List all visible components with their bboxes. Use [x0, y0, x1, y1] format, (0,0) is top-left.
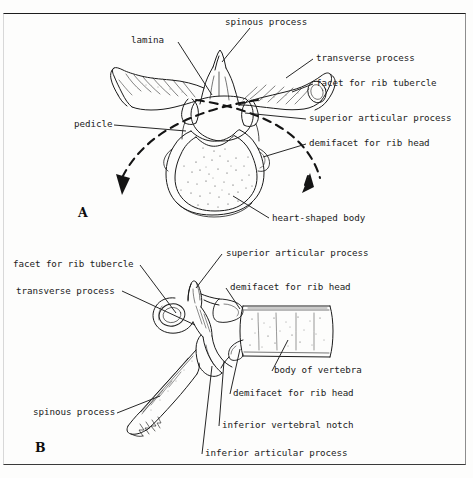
label-transverse-process-b: transverse process: [16, 285, 115, 296]
label-heart-shaped-body-a: heart-shaped body: [272, 212, 365, 223]
label-superior-articular-process-b: superior articular process: [226, 247, 369, 258]
label-spinous-process-a: spinous process: [225, 16, 307, 27]
panel-letter-a: A: [78, 205, 88, 220]
figure-plate: spinous process lamina transverse proces…: [0, 0, 473, 478]
label-demifacet-for-rib-head-b-upper: demifacet for rib head: [230, 281, 351, 292]
label-inferior-vertebral-notch-b: inferior vertebral notch: [222, 419, 354, 430]
label-spinous-process-b: spinous process: [33, 406, 115, 417]
label-superior-articular-process-a: superior articular process: [309, 112, 452, 123]
label-inferior-articular-process-b: inferior articular process: [205, 447, 348, 458]
label-pedicle-a: pedicle: [74, 118, 112, 129]
label-demifacet-for-rib-head-a: demifacet for rib head: [309, 137, 430, 148]
label-facet-for-rib-tubercle-b: facet for rib tubercle: [13, 258, 134, 269]
label-body-of-vertebra-b: body of vertebra: [274, 364, 362, 375]
label-facet-for-rib-tubercle-a: facet for rib tubercle: [316, 77, 437, 88]
panel-letter-b: B: [35, 440, 46, 455]
label-lamina-a: lamina: [131, 34, 164, 45]
label-demifacet-for-rib-head-b-lower: demifacet for rib head: [233, 387, 354, 398]
label-transverse-process-a: transverse process: [316, 52, 415, 63]
